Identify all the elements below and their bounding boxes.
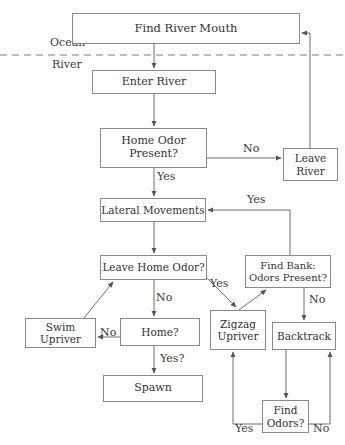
edge-find-odors-no-to-backtrack (309, 352, 330, 424)
node-backtrack[interactable]: Backtrack (272, 322, 336, 350)
node-swim-upriver[interactable]: Swim Upriver (25, 318, 96, 348)
node-lateral-movements[interactable]: Lateral Movements (100, 198, 206, 222)
node-find-odors[interactable]: Find Odors? (262, 400, 309, 433)
edge-find-odors-yes-to-zigzag (233, 352, 262, 424)
edge-zigzag-to-find-bank (239, 290, 266, 310)
node-home-odor-present[interactable]: Home Odor Present? (100, 128, 207, 168)
edge-label-leave-home-odor-no: No (156, 291, 172, 304)
edge-swim-upriver-to-leave-home-odor (84, 282, 113, 318)
edge-find-bank-yes-to-lateral-movements (208, 210, 290, 255)
node-leave-river[interactable]: Leave River (283, 148, 338, 181)
node-find-river-mouth[interactable]: Find River Mouth (72, 13, 300, 44)
edge-label-find-bank-no: No (309, 293, 325, 306)
edge-label-leave-home-odor-yes: Yes (210, 277, 228, 290)
edge-leave-river-to-find-river-mouth (302, 33, 310, 148)
node-enter-river[interactable]: Enter River (92, 70, 216, 94)
node-find-bank-odors-present[interactable]: Find Bank: Odors Present? (245, 255, 331, 288)
edge-label-find-odors-yes: Yes (235, 422, 253, 435)
node-spawn[interactable]: Spawn (103, 375, 203, 402)
region-label-river: River (52, 58, 82, 71)
edge-label-find-bank-yes: Yes (247, 193, 265, 206)
edge-label-find-odors-no: No (313, 422, 329, 435)
edge-label-home-no: No (100, 326, 116, 339)
edge-label-home-odor-no: No (243, 142, 259, 155)
edge-label-home-yes: Yes? (160, 352, 184, 365)
flowchart-canvas: Leave River --> Lateral Movements --> Zi… (0, 0, 345, 445)
edge-label-home-odor-yes: Yes (157, 170, 175, 183)
node-home[interactable]: Home? (120, 318, 200, 346)
node-zigzag-upriver[interactable]: Zigzag Upriver (210, 310, 266, 350)
node-leave-home-odor[interactable]: Leave Home Odor? (100, 255, 207, 280)
